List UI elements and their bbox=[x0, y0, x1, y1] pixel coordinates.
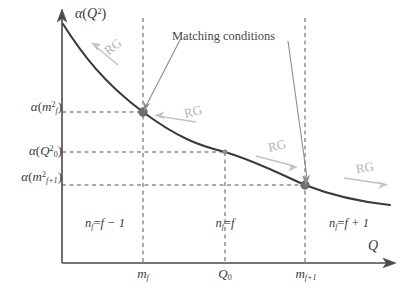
x-tick-label-mf: mf bbox=[120, 266, 166, 282]
rg-label-far-right: RG bbox=[355, 159, 376, 178]
flavour-subscript: f+1 bbox=[305, 273, 317, 282]
y-axis-title-base: Q bbox=[87, 6, 97, 21]
mass-symbol: m bbox=[295, 266, 304, 281]
region-label-between-thresholds: nf=f bbox=[190, 216, 260, 231]
scale-symbol: Q bbox=[218, 266, 227, 281]
x-tick-label-mf1: mf+1 bbox=[280, 266, 332, 282]
y-axis-title-paren-close: ) bbox=[102, 6, 107, 21]
mass-symbol: m bbox=[33, 169, 42, 184]
leader-line-left bbox=[146, 40, 180, 106]
scale-symbol: Q bbox=[40, 143, 49, 158]
region-label-below-threshold: nf=f − 1 bbox=[66, 216, 144, 231]
y-tick-label-alpha-mf: α(m2f) bbox=[4, 99, 62, 115]
index-subscript: 0 bbox=[228, 273, 232, 282]
nf-value: f + 1 bbox=[345, 216, 369, 230]
nf-value: f bbox=[231, 216, 234, 230]
rg-arrow-3 bbox=[344, 178, 384, 184]
equals-sign: = bbox=[93, 216, 100, 230]
mass-symbol: m bbox=[42, 99, 51, 114]
x-tick-label-q0: Q0 bbox=[202, 266, 248, 282]
alpha-symbol: α bbox=[29, 143, 36, 158]
matching-conditions-annotation: Matching conditions bbox=[172, 29, 275, 44]
equals-sign: = bbox=[337, 216, 344, 230]
rg-flow-arrows bbox=[94, 45, 384, 184]
paren-close: ) bbox=[58, 99, 62, 114]
rg-running-coupling-figure: α(Q2) Q α(m2f) α(Q20) α(m2f+1) mf Q0 mf+… bbox=[0, 0, 403, 296]
paren-close: ) bbox=[58, 143, 62, 158]
alpha-symbol: α bbox=[31, 99, 38, 114]
equals-sign: = bbox=[224, 216, 231, 230]
flavour-subscript: f+1 bbox=[46, 176, 58, 185]
nf-value: f − 1 bbox=[101, 216, 125, 230]
rg-arrowhead-1 bbox=[154, 112, 165, 120]
annotation-leader-lines bbox=[146, 40, 307, 178]
paren-close: ) bbox=[58, 169, 62, 184]
rg-arrowhead-2 bbox=[287, 164, 298, 172]
y-tick-label-alpha-q0: α(Q20) bbox=[4, 143, 62, 159]
region-label-above-threshold: nf=f + 1 bbox=[310, 216, 388, 231]
flavour-subscript: f bbox=[147, 273, 149, 282]
y-axis-title: α(Q2) bbox=[75, 6, 106, 22]
marker-q0 bbox=[223, 150, 228, 155]
mass-symbol: m bbox=[137, 266, 146, 281]
rg-arrowhead-3 bbox=[378, 181, 388, 189]
y-tick-label-alpha-mf1: α(m2f+1) bbox=[0, 169, 62, 185]
x-axis-title: Q bbox=[368, 238, 378, 254]
leader-line-right bbox=[288, 41, 307, 178]
